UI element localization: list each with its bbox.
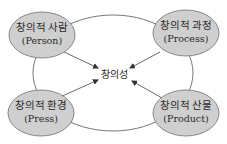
node-product-label: 창의적 산물 (Product) <box>153 99 219 125</box>
arrow-person-to-center <box>62 51 98 68</box>
node-press-korean: 창의적 환경 <box>8 99 74 112</box>
node-product-english: (Product) <box>153 112 219 125</box>
node-press-english: (Press) <box>8 112 74 125</box>
node-person-label: 창의적 사람 (Person) <box>9 21 75 47</box>
center-label-creativity: 창의성 <box>96 66 132 81</box>
arrow-process-to-center <box>130 52 160 68</box>
node-process-english: (Process) <box>153 32 219 45</box>
node-press-label: 창의적 환경 (Press) <box>8 99 74 125</box>
node-person-korean: 창의적 사람 <box>9 21 75 34</box>
arrow-product-to-center <box>132 81 162 98</box>
node-product-korean: 창의적 산물 <box>153 99 219 112</box>
node-process-korean: 창의적 과정 <box>153 19 219 32</box>
node-person-english: (Person) <box>9 34 75 47</box>
node-process-label: 창의적 과정 (Process) <box>153 19 219 45</box>
arrow-press-to-center <box>60 80 98 97</box>
